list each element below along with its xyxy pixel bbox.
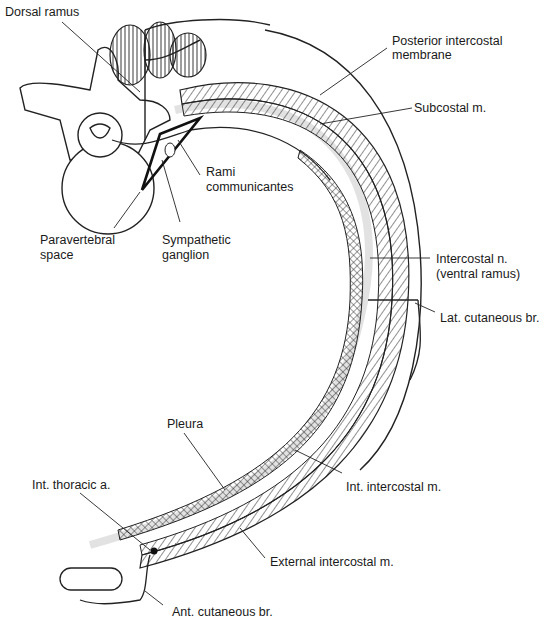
sternum xyxy=(60,568,122,590)
label-ant-cutaneous: Ant. cutaneous br. xyxy=(172,605,273,619)
label-intercostal-nerve-2: (ventral ramus) xyxy=(436,267,520,281)
label-sympathetic-2: ganglion xyxy=(162,248,209,262)
innermost-band xyxy=(118,150,363,540)
label-rami-2: communicantes xyxy=(206,180,294,194)
label-subcostal: Subcostal m. xyxy=(414,101,486,115)
label-posterior-intercostal-membrane-1: Posterior intercostal xyxy=(392,34,502,48)
deep-back-muscles xyxy=(110,22,206,85)
label-int-thoracic: Int. thoracic a. xyxy=(32,478,111,492)
sympathetic-ganglion xyxy=(165,143,175,157)
label-paravertebral-2: space xyxy=(40,248,73,262)
label-intercostal-nerve-1: Intercostal n. xyxy=(436,252,508,266)
label-paravertebral-1: Paravertebral xyxy=(40,233,115,247)
label-sympathetic-1: Sympathetic xyxy=(162,233,231,247)
label-pleura: Pleura xyxy=(167,417,203,431)
vertebra xyxy=(20,47,170,234)
label-external-intercostal: External intercostal m. xyxy=(270,555,394,569)
label-rami-1: Rami xyxy=(206,165,235,179)
label-posterior-intercostal-membrane-2: membrane xyxy=(392,48,452,62)
label-int-intercostal: Int. intercostal m. xyxy=(346,480,441,494)
label-lat-cutaneous: Lat. cutaneous br. xyxy=(440,311,539,325)
int-thoracic-artery xyxy=(151,548,158,555)
label-dorsal-ramus: Dorsal ramus xyxy=(5,5,79,19)
